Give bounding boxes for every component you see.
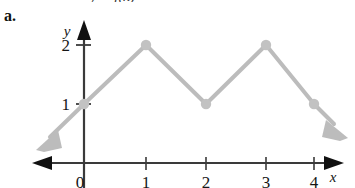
function-curve (36, 40, 348, 152)
x-tick-label-3: 3 (262, 173, 271, 188)
curve-polyline (84, 45, 314, 104)
x-axis-left-arrowhead (32, 156, 52, 170)
x-tick-label-2: 2 (202, 173, 211, 188)
part-label: a. (4, 8, 16, 24)
x-axis-right-arrowhead (324, 156, 344, 170)
x-tick-label-1: 1 (142, 173, 151, 188)
data-point-3 (261, 40, 271, 50)
x-tick-label-4: 4 (310, 173, 319, 188)
curve-left-arrowhead (36, 130, 62, 152)
data-point-2 (201, 99, 211, 109)
x-axis-label: x (329, 169, 337, 185)
data-point-1 (141, 40, 151, 50)
cropped-header-text: y = f(x) (0, 0, 355, 2)
x-axis (32, 156, 344, 170)
y-axis-top-arrowhead (77, 20, 91, 40)
figure-panel: y = f(x) a. (0, 0, 355, 188)
y-tick-label-2: 2 (62, 36, 71, 55)
data-point-0 (79, 99, 89, 109)
data-point-4 (309, 99, 319, 109)
y-tick-label-1: 1 (62, 95, 71, 114)
x-tick-label-0: 0 (76, 173, 85, 188)
coordinate-plot: y x 2 1 0 1 2 3 4 (0, 0, 355, 188)
